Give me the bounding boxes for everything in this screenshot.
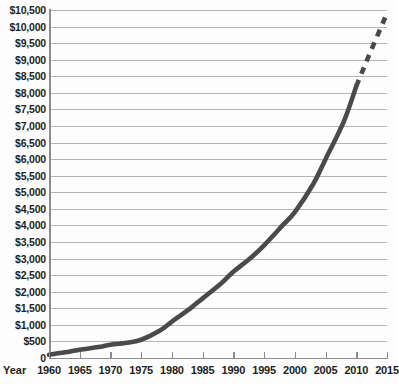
y-axis-tick-label: $6,000 [0,154,46,164]
y-axis-tick-label: $2,500 [0,270,46,280]
gridline [49,10,387,11]
gridline [49,76,387,77]
y-axis-tick-label: $4,500 [0,204,46,214]
plot-area [49,10,387,358]
x-axis-tick [356,352,357,358]
x-axis-tick [264,352,265,358]
x-axis-tick-label: 2015 [375,364,399,376]
x-axis-tick-label: 1965 [68,364,92,376]
y-axis-tick-label: $5,000 [0,187,46,197]
x-axis-tick [172,352,173,358]
x-axis-tick [110,352,111,358]
x-axis-tick-label: 2000 [283,364,307,376]
gridline [49,259,387,260]
x-axis-tick [233,352,234,358]
gridline [49,176,387,177]
x-axis-tick-label: 2005 [314,364,338,376]
x-axis-tick [80,352,81,358]
gridline [49,242,387,243]
gridline [49,275,387,276]
y-axis-tick-label: $8,000 [0,88,46,98]
y-axis-tick-label: $3,000 [0,254,46,264]
y-axis-tick-label: $2,000 [0,287,46,297]
y-axis-tick-label: $7,000 [0,121,46,131]
y-axis-tick-label: $5,500 [0,171,46,181]
gridline [49,27,387,28]
x-axis-title: Year [3,364,26,376]
y-axis-line [49,9,51,359]
y-axis-tick-label: $8,500 [0,71,46,81]
x-axis-line [49,358,388,360]
gridline [49,126,387,127]
x-axis-tick [141,352,142,358]
gridline [49,292,387,293]
y-axis-tick-label: $3,500 [0,237,46,247]
y-axis-tick-label: $10,000 [0,22,46,32]
y-axis-tick-labels: $10,500$10,000$9,500$9,000$8,500$8,000$7… [0,0,46,384]
gridline [49,109,387,110]
y-axis-tick-label: $9,000 [0,55,46,65]
x-axis-tick-label: 1970 [99,364,123,376]
x-axis-tick-label: 2010 [344,364,368,376]
x-axis-tick-label: 1985 [191,364,215,376]
y-axis-tick-label: $4,000 [0,220,46,230]
y-axis-tick-label: $7,500 [0,104,46,114]
y-axis-tick-label: $9,500 [0,38,46,48]
gridline [49,43,387,44]
y-axis-tick-label: $1,000 [0,320,46,330]
x-axis-tick-label: 1980 [160,364,184,376]
x-axis-tick [387,352,388,358]
gridline [49,159,387,160]
y-axis-tick-label: $6,500 [0,138,46,148]
gridline [49,192,387,193]
x-axis-tick [49,352,50,358]
x-axis-tick-label: 1975 [129,364,153,376]
gridline [49,225,387,226]
gridline [49,143,387,144]
x-axis-tick-label: 1990 [222,364,246,376]
y-axis-tick-label: $1,500 [0,303,46,313]
gridline [49,325,387,326]
gridline [49,60,387,61]
x-axis-tick [326,352,327,358]
y-axis-tick-label: $500 [0,336,46,346]
gridline [49,308,387,309]
x-axis-tick-label: 1995 [252,364,276,376]
gridline [49,209,387,210]
gridline [49,341,387,342]
x-axis-tick-label: 1960 [37,364,61,376]
x-axis-tick [295,352,296,358]
y-axis-tick-label: 0 [0,353,46,363]
x-axis-tick [203,352,204,358]
gridline [49,93,387,94]
y-axis-tick-label: $10,500 [0,5,46,15]
